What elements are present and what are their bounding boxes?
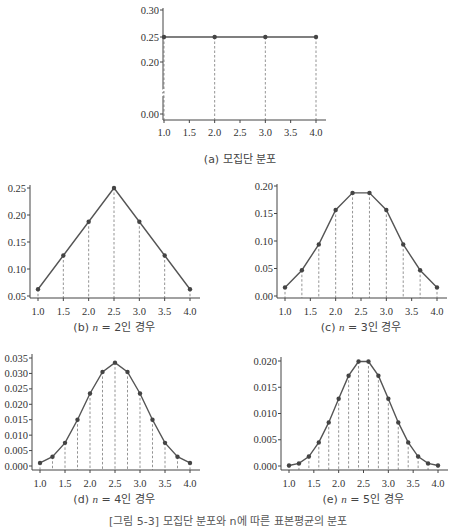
x-tick-label: 3.0 bbox=[133, 306, 146, 317]
data-point bbox=[346, 374, 350, 378]
y-tick-label: 0.20 bbox=[255, 181, 273, 192]
data-point bbox=[125, 370, 129, 374]
data-point bbox=[317, 440, 321, 444]
data-point bbox=[287, 463, 291, 467]
x-tick-label: 1.0 bbox=[278, 306, 291, 317]
y-tick-label: 0.010 bbox=[253, 408, 277, 419]
data-point bbox=[212, 35, 216, 39]
chart-b: 0.050.100.150.200.251.01.52.02.53.03.54.… bbox=[8, 183, 200, 318]
x-tick-label: 4.0 bbox=[309, 127, 322, 138]
x-tick-label: 3.5 bbox=[405, 306, 418, 317]
y-tick-label: 0.020 bbox=[4, 399, 28, 410]
y-tick-label: 0.015 bbox=[253, 382, 277, 393]
data-point bbox=[137, 220, 141, 224]
x-tick-label: 3.5 bbox=[158, 306, 171, 317]
y-tick-label: 0.010 bbox=[4, 430, 28, 441]
x-tick-label: 4.0 bbox=[183, 306, 196, 317]
data-point bbox=[386, 397, 390, 401]
x-tick-label: 4.0 bbox=[431, 478, 444, 489]
x-tick-label: 2.0 bbox=[83, 478, 96, 489]
x-tick-label: 3.0 bbox=[380, 306, 393, 317]
data-point bbox=[401, 242, 405, 246]
data-point bbox=[436, 463, 440, 467]
figure-caption: [그림 5-3] 모집단 분포와 n에 따른 표본평균의 분포 bbox=[109, 512, 347, 528]
data-point bbox=[307, 454, 311, 458]
y-tick-label: 0.005 bbox=[4, 445, 28, 456]
x-tick-label: 3.5 bbox=[158, 478, 171, 489]
y-tick-label: 0.030 bbox=[4, 368, 28, 379]
y-tick-label: 0.00 bbox=[255, 291, 273, 302]
data-point bbox=[416, 454, 420, 458]
caption-c: (c) n = 3인 경우 bbox=[321, 318, 401, 334]
x-tick-label: 3.0 bbox=[382, 478, 395, 489]
caption-e: (e) n = 5인 경우 bbox=[322, 490, 403, 506]
data-point bbox=[162, 253, 166, 257]
data-point bbox=[317, 242, 321, 246]
data-point bbox=[426, 461, 430, 465]
y-tick-label: 0.20 bbox=[8, 210, 26, 221]
data-point bbox=[88, 391, 92, 395]
x-tick-label: 3.0 bbox=[259, 127, 272, 138]
x-tick-label: 2.5 bbox=[233, 127, 246, 138]
y-tick-label: 0.000 bbox=[4, 461, 28, 472]
data-point bbox=[63, 441, 67, 445]
x-tick-label: 2.5 bbox=[357, 478, 370, 489]
data-point bbox=[263, 35, 267, 39]
data-point bbox=[163, 441, 167, 445]
data-point bbox=[100, 370, 104, 374]
data-point bbox=[50, 455, 54, 459]
data-point bbox=[336, 397, 340, 401]
data-point bbox=[406, 440, 410, 444]
data-point bbox=[367, 191, 371, 195]
data-point bbox=[150, 418, 154, 422]
data-point bbox=[384, 208, 388, 212]
data-point bbox=[327, 420, 331, 424]
y-tick-label: 0.20 bbox=[141, 57, 159, 68]
x-tick-label: 1.5 bbox=[304, 306, 317, 317]
chart-e: 0.0000.0050.0100.0150.0201.01.52.02.53.0… bbox=[253, 356, 448, 490]
caption-a: (a) 모집단 분포 bbox=[204, 150, 276, 166]
data-point bbox=[162, 35, 166, 39]
x-tick-label: 2.0 bbox=[329, 306, 342, 317]
x-tick-label: 1.5 bbox=[307, 478, 320, 489]
x-tick-label: 3.5 bbox=[407, 478, 420, 489]
y-tick-label: 0.15 bbox=[8, 237, 26, 248]
y-tick-label: 0.015 bbox=[4, 414, 28, 425]
data-point bbox=[36, 287, 40, 291]
data-point bbox=[61, 253, 65, 257]
data-point bbox=[333, 208, 337, 212]
x-tick-label: 2.0 bbox=[332, 478, 345, 489]
series-line bbox=[285, 193, 437, 288]
data-point bbox=[300, 268, 304, 272]
x-tick-label: 2.5 bbox=[107, 306, 120, 317]
y-tick-label: 0.05 bbox=[255, 263, 273, 274]
y-tick-label: 0.035 bbox=[4, 353, 28, 364]
x-tick-label: 3.0 bbox=[133, 478, 146, 489]
y-tick-label: 0.020 bbox=[253, 356, 277, 367]
x-tick-label: 1.5 bbox=[57, 306, 70, 317]
data-point bbox=[112, 186, 116, 190]
x-tick-label: 2.5 bbox=[354, 306, 367, 317]
chart-d: 0.0000.0050.0100.0150.0200.0250.0300.035… bbox=[4, 353, 200, 490]
y-tick-label: 0.25 bbox=[8, 183, 26, 194]
data-point bbox=[356, 359, 360, 363]
data-point bbox=[314, 35, 318, 39]
data-point bbox=[396, 420, 400, 424]
y-tick-label: 0.00 bbox=[141, 109, 159, 120]
data-point bbox=[283, 285, 287, 289]
x-tick-label: 2.0 bbox=[82, 306, 95, 317]
x-tick-label: 1.0 bbox=[157, 127, 170, 138]
y-tick-label: 0.30 bbox=[141, 5, 159, 16]
data-point bbox=[297, 461, 301, 465]
caption-b: (b) n = 2인 경우 bbox=[73, 318, 154, 334]
x-tick-label: 2.0 bbox=[208, 127, 221, 138]
data-point bbox=[188, 461, 192, 465]
x-tick-label: 2.5 bbox=[108, 478, 121, 489]
caption-d: (d) n = 4인 경우 bbox=[73, 490, 154, 506]
x-tick-label: 4.0 bbox=[430, 306, 443, 317]
data-point bbox=[376, 374, 380, 378]
x-tick-label: 1.0 bbox=[33, 478, 46, 489]
data-point bbox=[418, 268, 422, 272]
x-tick-label: 4.0 bbox=[183, 478, 196, 489]
